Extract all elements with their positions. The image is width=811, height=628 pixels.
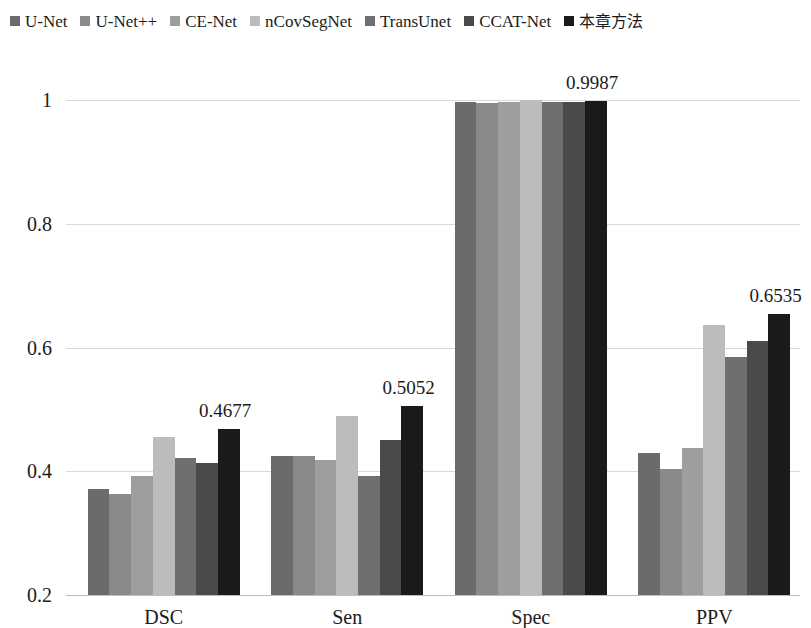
bar-value-label: 0.4677 [199, 401, 251, 420]
bar-group-sen [271, 100, 423, 595]
legend-item[interactable]: U-Net [10, 13, 67, 30]
x-axis-tick-label: PPV [618, 607, 810, 627]
bar[interactable] [196, 463, 218, 595]
bar[interactable] [109, 494, 131, 595]
bar[interactable] [660, 469, 682, 595]
legend-swatch-icon [564, 16, 574, 26]
bar-value-label: 0.9987 [566, 73, 618, 92]
bar-chart: 0.20.40.60.81DSC0.4677Sen0.5052Spec0.998… [0, 40, 811, 566]
legend-item[interactable]: TransUnet [365, 13, 451, 30]
bar-group-ppv [638, 100, 790, 595]
y-axis-tick-label: 0.4 [0, 461, 52, 481]
legend-item[interactable]: 本章方法 [564, 13, 643, 30]
bar-value-label: 0.6535 [749, 286, 801, 305]
bar[interactable] [358, 476, 380, 595]
legend-item[interactable]: CE-Net [170, 13, 237, 30]
bar[interactable] [88, 489, 110, 595]
legend-item[interactable]: CCAT-Net [464, 13, 551, 30]
legend-swatch-icon [250, 16, 260, 26]
y-axis-tick-label: 0.8 [0, 214, 52, 234]
plot-area: 0.20.40.60.81DSC0.4677Sen0.5052Spec0.998… [66, 100, 800, 595]
bar[interactable] [563, 102, 585, 595]
bar-group-spec [455, 100, 607, 595]
bar[interactable] [768, 314, 790, 595]
legend-item[interactable]: nCovSegNet [250, 13, 352, 30]
x-axis-tick-label: Sen [251, 607, 443, 627]
bar[interactable] [498, 102, 520, 595]
x-axis-tick-label: Spec [435, 607, 627, 627]
bar[interactable] [293, 456, 315, 595]
bar[interactable] [585, 101, 607, 595]
bar[interactable] [131, 476, 153, 595]
bar[interactable] [455, 102, 477, 595]
bar-value-label: 0.5052 [382, 378, 434, 397]
y-axis-tick-label: 0.6 [0, 338, 52, 358]
legend-swatch-icon [10, 16, 20, 26]
x-axis-tick-label: DSC [68, 607, 260, 627]
legend-item-label: U-Net [25, 13, 67, 30]
axis-baseline [66, 595, 800, 596]
legend-swatch-icon [80, 16, 90, 26]
bar[interactable] [703, 325, 725, 595]
bar[interactable] [336, 416, 358, 595]
y-axis-tick-label: 0.2 [0, 585, 52, 605]
legend-item-label: TransUnet [380, 13, 451, 30]
legend-swatch-icon [170, 16, 180, 26]
legend-swatch-icon [365, 16, 375, 26]
legend-item-label: CE-Net [185, 13, 237, 30]
legend-item-label: nCovSegNet [265, 13, 352, 30]
y-axis-tick-label: 1 [0, 90, 52, 110]
legend-item-label: CCAT-Net [479, 13, 551, 30]
bar[interactable] [476, 103, 498, 595]
bar[interactable] [401, 406, 423, 595]
bar[interactable] [175, 458, 197, 595]
bar[interactable] [725, 357, 747, 595]
bar[interactable] [747, 341, 769, 595]
legend-item[interactable]: U-Net++ [80, 13, 157, 30]
legend-item-label: U-Net++ [95, 13, 157, 30]
chart-legend: U-NetU-Net++CE-NetnCovSegNetTransUnetCCA… [10, 10, 801, 32]
bar[interactable] [271, 456, 293, 595]
bar[interactable] [638, 453, 660, 595]
bar-group-dsc [88, 100, 240, 595]
legend-item-label: 本章方法 [579, 13, 643, 30]
bar[interactable] [520, 100, 542, 595]
legend-swatch-icon [464, 16, 474, 26]
bar[interactable] [682, 448, 704, 595]
bar[interactable] [542, 102, 564, 595]
bar[interactable] [315, 460, 337, 595]
bar[interactable] [218, 429, 240, 595]
bar[interactable] [380, 440, 402, 595]
bar[interactable] [153, 437, 175, 595]
